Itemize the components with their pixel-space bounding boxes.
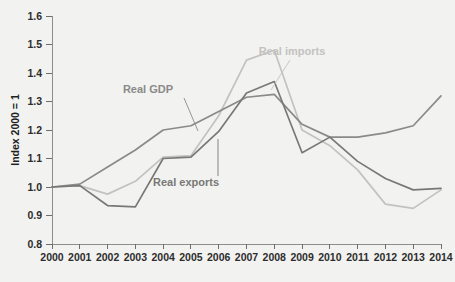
y-tick-label: 1.6 [27,10,42,22]
y-tick-label: 1.2 [27,124,42,136]
annotation-label-real-exports: Real exports [153,176,219,188]
x-tick-label: 2003 [124,251,148,263]
x-tick-label: 2005 [179,251,203,263]
x-tick-label: 2002 [96,251,120,263]
y-tick-label: 1.5 [27,38,42,50]
x-tick-label: 2004 [151,251,175,263]
y-axis-title: Index 2000 = 1 [9,94,21,166]
x-tick-label: 2013 [402,251,426,263]
x-tick-label: 2000 [40,251,64,263]
y-tick-label: 0.8 [27,238,42,250]
y-tick-label: 1.3 [27,95,42,107]
x-tick-label: 2010 [318,251,342,263]
annotation-label-real-gdp: Real GDP [123,83,173,95]
x-tick-label: 2012 [374,251,398,263]
y-tick-label: 1.4 [27,67,42,79]
chart-plot-area: 0.80.91.01.11.21.31.41.51.6 200020012002… [0,0,455,282]
y-tick-label: 1.0 [27,181,42,193]
annotation-label-real-imports: Real imports [259,45,326,57]
x-tick-label: 2009 [290,251,314,263]
x-tick-label: 2006 [207,251,231,263]
line-chart: 0.80.91.01.11.21.31.41.51.6 200020012002… [0,0,455,282]
y-tick-label: 1.1 [27,152,42,164]
x-tick-label: 2014 [429,251,453,263]
x-tick-label: 2008 [263,251,287,263]
x-tick-label: 2011 [346,251,369,263]
y-tick-label: 0.9 [27,209,42,221]
chart-background [0,0,455,282]
x-tick-label: 2007 [235,251,259,263]
x-tick-label: 2001 [68,251,92,263]
